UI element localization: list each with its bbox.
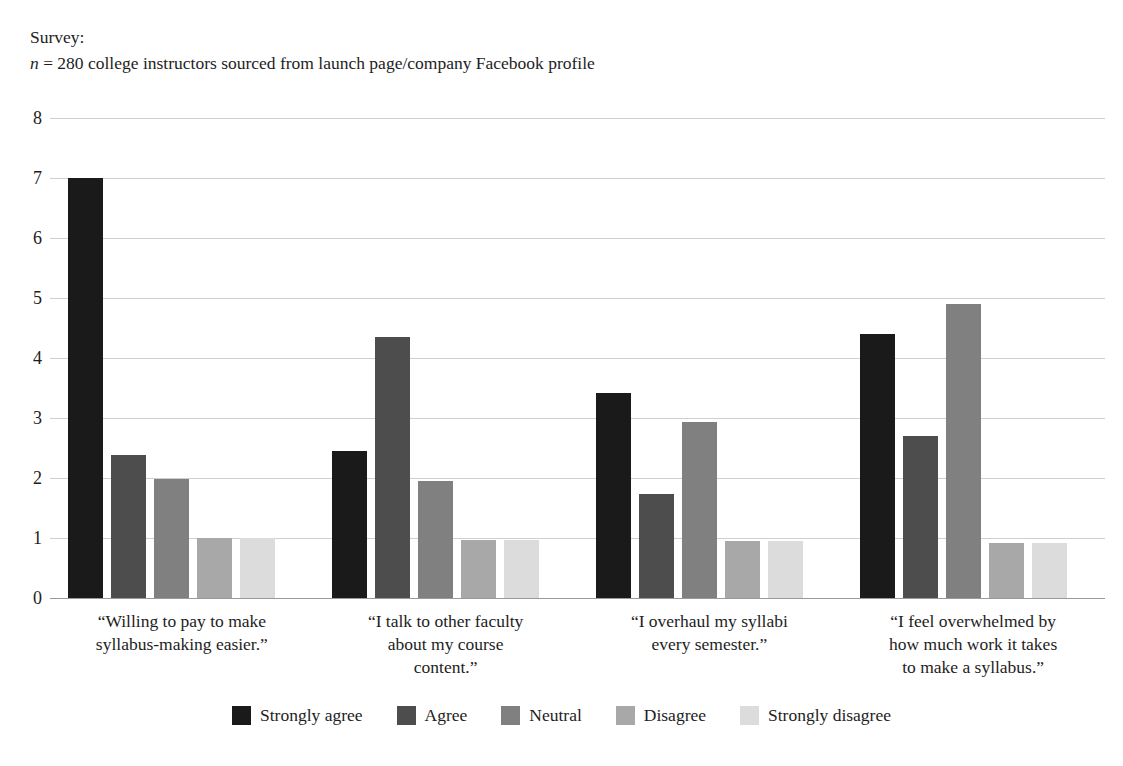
legend-swatch-icon-5 bbox=[740, 706, 759, 725]
y-tick-label-3: 3 bbox=[14, 409, 42, 427]
bar-group-4 bbox=[860, 118, 1067, 598]
legend-item-neutral[interactable]: Neutral bbox=[501, 706, 581, 725]
y-tick-label-4: 4 bbox=[14, 349, 42, 367]
bar-1-strongly-disagree[interactable] bbox=[240, 538, 275, 598]
bar-3-strongly-agree[interactable] bbox=[596, 393, 631, 598]
bar-group-2 bbox=[332, 118, 539, 598]
bar-4-strongly-agree[interactable] bbox=[860, 334, 895, 598]
category-label-3-line-1: “I overhaul my syllabi bbox=[578, 610, 842, 633]
x-axis-line bbox=[50, 598, 1105, 599]
legend-label-4: Disagree bbox=[644, 706, 706, 725]
legend-item-disagree[interactable]: Disagree bbox=[616, 706, 706, 725]
category-label-3-line-2: every semester.” bbox=[578, 633, 842, 656]
bar-2-strongly-disagree[interactable] bbox=[504, 540, 539, 598]
category-label-2: “I talk to other facultyabout my coursec… bbox=[314, 610, 578, 679]
bar-2-agree[interactable] bbox=[375, 337, 410, 598]
y-axis: 012345678 bbox=[8, 118, 42, 598]
category-label-1-line-2: syllabus-making easier.” bbox=[50, 633, 314, 656]
bar-3-neutral[interactable] bbox=[682, 422, 717, 598]
y-tick-label-8: 8 bbox=[14, 109, 42, 127]
bar-4-strongly-disagree[interactable] bbox=[1032, 543, 1067, 598]
bar-group-1 bbox=[68, 118, 275, 598]
legend-swatch-icon-4 bbox=[616, 706, 635, 725]
y-tick-label-7: 7 bbox=[14, 169, 42, 187]
legend-swatch-icon-3 bbox=[501, 706, 520, 725]
legend-item-strongly-agree[interactable]: Strongly agree bbox=[232, 706, 363, 725]
bar-2-neutral[interactable] bbox=[418, 481, 453, 598]
y-tick-label-1: 1 bbox=[14, 529, 42, 547]
category-label-4-line-3: to make a syllabus.” bbox=[841, 656, 1105, 679]
y-tick-label-2: 2 bbox=[14, 469, 42, 487]
bar-2-disagree[interactable] bbox=[461, 540, 496, 598]
chart-legend: Strongly agreeAgreeNeutralDisagreeStrong… bbox=[0, 706, 1123, 725]
legend-item-agree[interactable]: Agree bbox=[397, 706, 468, 725]
bar-3-disagree[interactable] bbox=[725, 541, 760, 598]
category-label-4: “I feel overwhelmed byhow much work it t… bbox=[841, 610, 1105, 679]
legend-label-1: Strongly agree bbox=[260, 706, 363, 725]
bar-4-neutral[interactable] bbox=[946, 304, 981, 598]
category-label-2-line-1: “I talk to other faculty bbox=[314, 610, 578, 633]
category-label-4-line-2: how much work it takes bbox=[841, 633, 1105, 656]
bar-1-agree[interactable] bbox=[111, 455, 146, 598]
bar-chart: 012345678 “Willing to pay to makesyllabu… bbox=[0, 0, 1123, 766]
bar-1-neutral[interactable] bbox=[154, 479, 189, 598]
legend-swatch-icon-2 bbox=[397, 706, 416, 725]
legend-swatch-icon-1 bbox=[232, 706, 251, 725]
legend-label-5: Strongly disagree bbox=[768, 706, 891, 725]
legend-label-2: Agree bbox=[425, 706, 468, 725]
legend-label-3: Neutral bbox=[529, 706, 581, 725]
y-tick-label-6: 6 bbox=[14, 229, 42, 247]
y-tick-label-0: 0 bbox=[14, 589, 42, 607]
bar-group-3 bbox=[596, 118, 803, 598]
category-label-4-line-1: “I feel overwhelmed by bbox=[841, 610, 1105, 633]
bar-1-strongly-agree[interactable] bbox=[68, 178, 103, 598]
category-label-2-line-3: content.” bbox=[314, 656, 578, 679]
bar-4-agree[interactable] bbox=[903, 436, 938, 598]
category-label-3: “I overhaul my syllabievery semester.” bbox=[578, 610, 842, 656]
bar-3-strongly-disagree[interactable] bbox=[768, 541, 803, 598]
bar-1-disagree[interactable] bbox=[197, 538, 232, 598]
plot-area bbox=[50, 118, 1105, 598]
category-label-1: “Willing to pay to makesyllabus-making e… bbox=[50, 610, 314, 656]
y-tick-label-5: 5 bbox=[14, 289, 42, 307]
bar-4-disagree[interactable] bbox=[989, 543, 1024, 598]
legend-item-strongly-disagree[interactable]: Strongly disagree bbox=[740, 706, 891, 725]
bar-2-strongly-agree[interactable] bbox=[332, 451, 367, 598]
bar-3-agree[interactable] bbox=[639, 494, 674, 598]
category-label-2-line-2: about my course bbox=[314, 633, 578, 656]
category-label-1-line-1: “Willing to pay to make bbox=[50, 610, 314, 633]
x-axis-category-labels: “Willing to pay to makesyllabus-making e… bbox=[0, 610, 1123, 696]
